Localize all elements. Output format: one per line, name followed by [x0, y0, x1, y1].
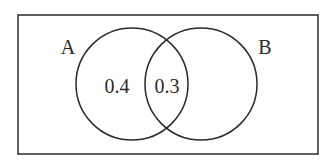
set-b-label: B	[258, 36, 271, 58]
venn-diagram: A B 0.4 0.3	[0, 0, 325, 163]
region-intersection-value: 0.3	[155, 75, 180, 97]
set-a-label: A	[61, 36, 76, 58]
region-a-only-value: 0.4	[105, 75, 130, 97]
